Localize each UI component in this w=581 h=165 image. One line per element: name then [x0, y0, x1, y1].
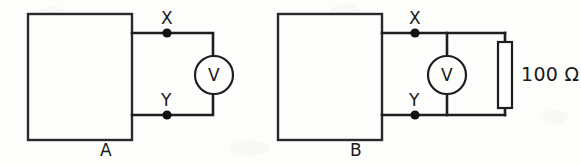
- circuit-a-terminal-x-label: X: [161, 10, 173, 27]
- circuit-a-terminal-y-label: Y: [161, 92, 171, 109]
- circuit-a-terminal-x-dot: [162, 28, 171, 37]
- circuit-a-group: [28, 14, 233, 140]
- circuit-b-terminal-x-dot: [410, 28, 419, 37]
- circuit-a-caption: A: [100, 142, 112, 159]
- circuit-b-source-box: [278, 14, 382, 140]
- circuit-b-voltmeter-label: V: [441, 67, 453, 84]
- circuit-b-terminal-y-dot: [410, 110, 419, 119]
- circuit-a-top-wire: [132, 33, 213, 56]
- circuit-diagram-figure: X Y V A X Y V 100 Ω B: [0, 0, 581, 165]
- circuit-b-caption: B: [350, 142, 362, 159]
- circuit-b-terminal-y-label: Y: [409, 92, 419, 109]
- circuit-a-source-box: [28, 14, 132, 140]
- circuit-a-voltmeter-label: V: [208, 67, 220, 84]
- circuit-b-group: [278, 14, 512, 140]
- circuit-b-terminal-x-label: X: [409, 10, 421, 27]
- circuit-b-resistor-body: [498, 42, 512, 108]
- circuit-b-resistor-label: 100 Ω: [521, 65, 579, 84]
- circuit-artwork: [0, 0, 581, 165]
- circuit-a-terminal-y-dot: [162, 110, 171, 119]
- circuit-a-bottom-wire: [132, 94, 213, 115]
